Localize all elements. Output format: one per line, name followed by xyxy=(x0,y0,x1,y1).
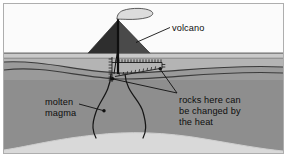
leader-dot-rocks-right xyxy=(159,67,163,71)
label-rocks-changed-by-heat: rocks here canbe changed bythe heat xyxy=(179,95,241,129)
label-rocks-line1: rocks here can xyxy=(179,95,241,105)
label-volcano: volcano xyxy=(172,23,204,34)
leader-dot-magma xyxy=(102,109,105,112)
leader-dot-rocks-left xyxy=(111,77,115,81)
label-molten-magma: moltenmagma xyxy=(45,97,76,119)
label-rocks-line3: the heat xyxy=(179,117,213,127)
label-magma-line1: molten xyxy=(45,97,73,107)
label-magma-line2: magma xyxy=(45,108,76,118)
label-rocks-line2: be changed by xyxy=(179,106,241,116)
diagram-canvas: volcano moltenmagma rocks here canbe cha… xyxy=(0,0,287,165)
volcano-cross-section-svg xyxy=(0,0,287,165)
